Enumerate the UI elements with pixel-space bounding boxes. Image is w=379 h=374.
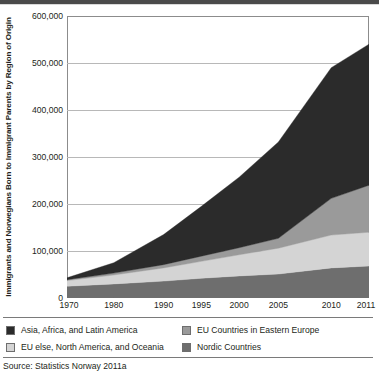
legend-item-label: Asia, Africa, and Latin America	[21, 326, 138, 335]
legend-swatch-icon	[6, 343, 15, 352]
y-axis-tick-label: 200,000	[32, 200, 63, 209]
legend-swatch-icon	[182, 343, 191, 352]
x-axis-tick-label: 1990	[154, 301, 173, 310]
legend-item-nordic-countries: Nordic Countries	[182, 340, 261, 354]
source-note: Source: Statistics Norway 2011a	[3, 362, 127, 371]
x-axis-tick-label: 2005	[269, 301, 288, 310]
x-axis-tick-label: 2010	[322, 301, 341, 310]
stacked-area-plot	[67, 16, 369, 298]
legend-bottom-rule	[3, 357, 373, 358]
legend-swatch-icon	[182, 326, 191, 335]
legend-item-eu-else-north-america-oceania: EU else, North America, and Oceania	[6, 340, 164, 354]
x-axis-tick-label: 2000	[230, 301, 249, 310]
legend-item-asia-africa-latin-america: Asia, Africa, and Latin America	[6, 323, 138, 337]
chart-legend: Asia, Africa, and Latin America EU else,…	[6, 322, 374, 356]
y-axis-title-container: Immigrants and Norwegians Born to Immigr…	[0, 11, 16, 303]
x-axis-tick-label: 1995	[192, 301, 211, 310]
legend-swatch-icon	[6, 326, 15, 335]
y-axis-tick-label: 300,000	[32, 153, 63, 162]
plot-area	[67, 16, 369, 298]
x-axis-tick-label: 1980	[104, 301, 123, 310]
legend-top-rule	[3, 317, 373, 318]
y-axis-title: Immigrants and Norwegians Born to Immigr…	[4, 17, 13, 296]
legend-item-eu-countries-eastern-europe: EU Countries in Eastern Europe	[182, 323, 319, 337]
y-axis-tick-label: 400,000	[32, 106, 63, 115]
x-axis-tick-label: 1970	[59, 301, 78, 310]
y-axis-tick-label: 100,000	[32, 247, 63, 256]
legend-item-label: EU Countries in Eastern Europe	[197, 326, 319, 335]
y-axis-tick-label: 500,000	[32, 59, 63, 68]
x-axis-tick-labels: 19701980199019952000200520102011	[67, 301, 369, 315]
chart-figure: Immigrants and Norwegians Born to Immigr…	[0, 5, 379, 374]
y-axis-tick-label: 600,000	[32, 12, 63, 21]
x-axis-tick-label: 2011	[357, 301, 375, 310]
legend-item-label: Nordic Countries	[197, 343, 261, 352]
legend-item-label: EU else, North America, and Oceania	[21, 343, 164, 352]
